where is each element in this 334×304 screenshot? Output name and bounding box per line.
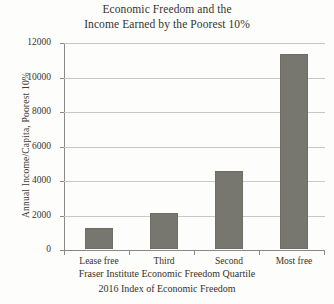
x-tick-label-most-free: Most free xyxy=(254,256,334,266)
y-tick-label: 12000 xyxy=(0,37,51,47)
x-tick-mark xyxy=(64,251,65,255)
x-tick-mark xyxy=(259,251,260,255)
x-tick-mark xyxy=(129,251,130,255)
y-tick-label: 4000 xyxy=(0,175,51,185)
chart-title: Economic Freedom and the Income Earned b… xyxy=(0,2,334,32)
bar xyxy=(215,171,243,249)
chart-title-line-1: Economic Freedom and the xyxy=(0,2,334,17)
chart-caption: Fraser Institute Economic Freedom Quarti… xyxy=(0,266,334,296)
y-tick-label: 0 xyxy=(0,244,51,254)
bar xyxy=(280,54,308,249)
y-tick-mark xyxy=(60,147,64,148)
caption-line-axis-title: Fraser Institute Economic Freedom Quarti… xyxy=(0,266,334,281)
x-tick-mark xyxy=(324,251,325,255)
y-tick-label: 2000 xyxy=(0,210,51,220)
bar xyxy=(85,228,113,249)
y-tick-mark xyxy=(60,78,64,79)
y-tick-mark xyxy=(60,181,64,182)
bar-chart-figure: Economic Freedom and the Income Earned b… xyxy=(0,0,334,304)
gridline xyxy=(64,43,325,44)
y-tick-label: 8000 xyxy=(0,106,51,116)
y-tick-label: 10000 xyxy=(0,72,51,82)
y-tick-mark xyxy=(60,216,64,217)
y-tick-mark xyxy=(60,112,64,113)
x-tick-mark xyxy=(194,251,195,255)
y-tick-label: 6000 xyxy=(0,141,51,151)
y-tick-mark xyxy=(60,43,64,44)
plot-area: 12000 10000 8000 6000 4000 2000 0 Lease … xyxy=(64,43,325,250)
caption-line-source: 2016 Index of Economic Freedom xyxy=(0,281,334,296)
bar xyxy=(150,213,178,249)
chart-title-line-2: Income Earned by the Poorest 10% xyxy=(0,17,334,32)
